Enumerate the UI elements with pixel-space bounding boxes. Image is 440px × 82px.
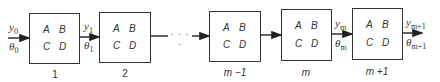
block-1: A B C D <box>29 13 80 64</box>
entry-c: C <box>223 39 230 50</box>
entry-b: B <box>382 19 389 30</box>
entry-d: D <box>311 38 318 49</box>
entry-a: A <box>366 19 373 30</box>
block-label: m <box>291 67 321 78</box>
entry-d: D <box>382 37 389 48</box>
signal-ym: ym <box>335 17 346 32</box>
signal-y0: y0 <box>9 21 18 36</box>
ellipsis: · · · · <box>168 29 192 49</box>
block-label: m −1 <box>215 67 255 78</box>
entry-a: A <box>223 22 230 33</box>
signal-theta0: θ0 <box>9 40 18 55</box>
entry-b: B <box>59 24 66 35</box>
block-m-plus-1: A B C D <box>352 8 403 60</box>
block-m-minus-1: A B C D <box>209 11 261 62</box>
block-label: m +1 <box>357 66 397 77</box>
block-2: A B C D <box>99 12 151 63</box>
signal-y1: y1 <box>84 20 93 35</box>
entry-d: D <box>129 40 136 51</box>
signal-y-m-plus-1: ym+1 <box>406 16 426 31</box>
entry-a: A <box>43 24 50 35</box>
entry-d: D <box>239 39 246 50</box>
block-m: A B C D <box>281 9 332 61</box>
entry-b: B <box>129 23 136 34</box>
entry-b: B <box>239 22 246 33</box>
entry-c: C <box>295 38 302 49</box>
entry-c: C <box>366 37 373 48</box>
entry-a: A <box>295 20 302 31</box>
entry-a: A <box>113 23 120 34</box>
entry-d: D <box>59 41 66 52</box>
entry-c: C <box>43 41 50 52</box>
entry-c: C <box>113 40 120 51</box>
block-label: 1 <box>40 69 70 80</box>
signal-theta-m: θm <box>335 37 347 52</box>
signal-theta-m-plus-1: θm+1 <box>406 36 426 51</box>
entry-b: B <box>311 20 318 31</box>
signal-theta1: θ1 <box>84 39 93 54</box>
block-label: 2 <box>110 68 140 79</box>
